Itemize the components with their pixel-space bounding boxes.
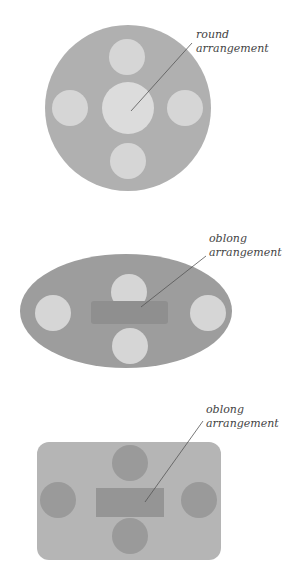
- seat-bottom: [112, 518, 148, 554]
- center-circle: [102, 82, 154, 134]
- rect-label: oblong arrangement: [206, 403, 279, 431]
- center-rectangle: [91, 301, 168, 324]
- round-label-line1: round: [196, 28, 269, 42]
- seat-bottom: [110, 143, 146, 179]
- rect-label-line2: arrangement: [206, 417, 279, 431]
- oval-label: oblong arrangement: [209, 232, 282, 260]
- round-label-line2: arrangement: [196, 42, 269, 56]
- center-rectangle: [96, 488, 164, 517]
- arrangement-diagrams: [0, 0, 288, 579]
- rect-label-line1: oblong: [206, 403, 279, 417]
- round-label: round arrangement: [196, 28, 269, 56]
- seat-right: [167, 90, 203, 126]
- seat-top: [112, 445, 148, 481]
- oval-arrangement-figure: [20, 254, 232, 368]
- round-arrangement-figure: [45, 25, 211, 191]
- seat-top: [109, 39, 145, 75]
- seat-left: [35, 295, 71, 331]
- rect-arrangement-figure: [37, 421, 221, 560]
- seat-right: [190, 295, 226, 331]
- seat-left: [52, 90, 88, 126]
- oval-label-line2: arrangement: [209, 246, 282, 260]
- seat-bottom: [112, 328, 148, 364]
- seat-right: [181, 482, 217, 518]
- seat-left: [40, 482, 76, 518]
- oval-label-line1: oblong: [209, 232, 282, 246]
